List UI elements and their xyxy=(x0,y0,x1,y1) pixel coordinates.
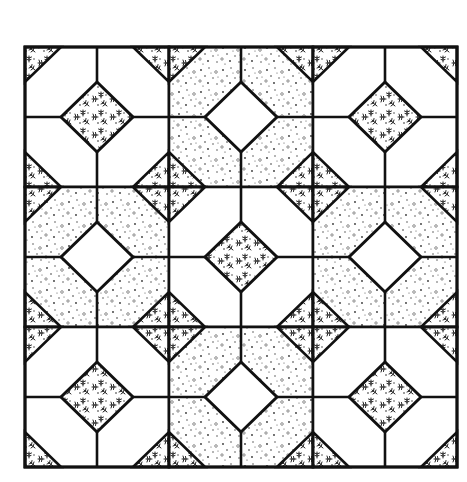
quilt-block-r0-c1 xyxy=(169,47,313,187)
quilt-block-r2-c0 xyxy=(25,327,169,467)
quilt-block-r1-c1 xyxy=(169,187,313,327)
quilt-block-r1-c2 xyxy=(313,187,457,327)
quilt-block-r2-c2 xyxy=(313,327,457,467)
quilt-blocks xyxy=(25,47,457,467)
quilt-block-r0-c0 xyxy=(25,47,169,187)
quilt-block-r0-c2 xyxy=(313,47,457,187)
quilt-block-r2-c1 xyxy=(169,327,313,467)
quilt-pattern xyxy=(0,0,467,482)
quilt-block-r1-c0 xyxy=(25,187,169,327)
